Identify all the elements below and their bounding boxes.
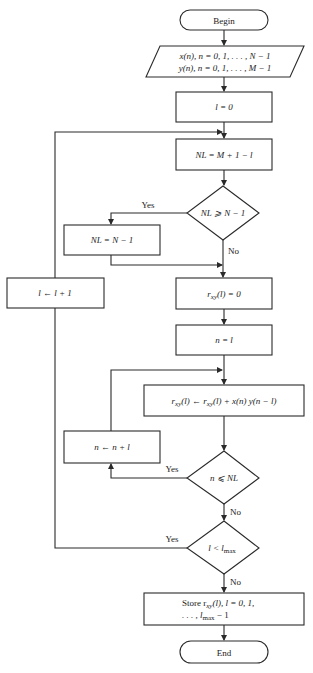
no-label: No	[228, 246, 239, 256]
store-box: Store rxy(l), l = 0, 1, . . . , lmax − 1	[144, 593, 304, 625]
decision-n-label: n ⩽ NL	[210, 473, 238, 483]
decision-nl-diamond: NL ⩾ N − 1	[187, 186, 259, 240]
yes-branch-line	[111, 213, 187, 224]
input-parallelogram: x(n), n = 0, 1, . . . , N − 1 y(n), n = …	[146, 46, 304, 77]
input-line-2: y(n), n = 0, 1, . . . , M − 1	[178, 63, 272, 73]
increment-l-label: l ← l + 1	[38, 288, 72, 298]
decision-nl-label: NL ⩾ N − 1	[200, 208, 245, 218]
increment-n-label: n ← n + l	[94, 442, 130, 452]
decision-n-diamond: n ⩽ NL	[187, 451, 259, 504]
yes-label: Yes	[165, 464, 179, 474]
end-terminator: End	[180, 641, 268, 663]
init-r-box: rxy(l) = 0	[176, 278, 272, 309]
clip-nl-label: NL = N − 1	[90, 235, 134, 245]
no-label: No	[230, 507, 241, 517]
merge-line	[111, 255, 222, 265]
yes-label: Yes	[165, 534, 179, 544]
clip-nl-box: NL = N − 1	[64, 225, 160, 255]
set-nl-label: NL = M + 1 − l	[194, 150, 253, 160]
set-nl-box: NL = M + 1 − l	[176, 139, 272, 170]
increment-n-box: n ← n + l	[64, 431, 160, 463]
init-n-box: n = l	[176, 325, 272, 355]
accumulate-box: rxy(l) ← rxy(l) + x(n) y(n − l)	[144, 385, 304, 416]
init-n-label: n = l	[215, 335, 233, 345]
flowchart-canvas: Begin x(n), n = 0, 1, . . . , N − 1 y(n)…	[0, 0, 313, 673]
input-line-1: x(n), n = 0, 1, . . . , N − 1	[178, 51, 270, 61]
init-l-box: l = 0	[176, 92, 272, 122]
no-label: No	[230, 577, 241, 587]
decision-l-diamond: l < lmax	[187, 521, 259, 574]
increment-l-box: l ← l + 1	[7, 278, 104, 308]
begin-label: Begin	[213, 16, 235, 26]
init-l-label: l = 0	[215, 102, 233, 112]
yes-label: Yes	[141, 200, 155, 210]
end-label: End	[217, 648, 232, 658]
yes-branch-line	[55, 308, 187, 548]
begin-terminator: Begin	[180, 10, 268, 30]
